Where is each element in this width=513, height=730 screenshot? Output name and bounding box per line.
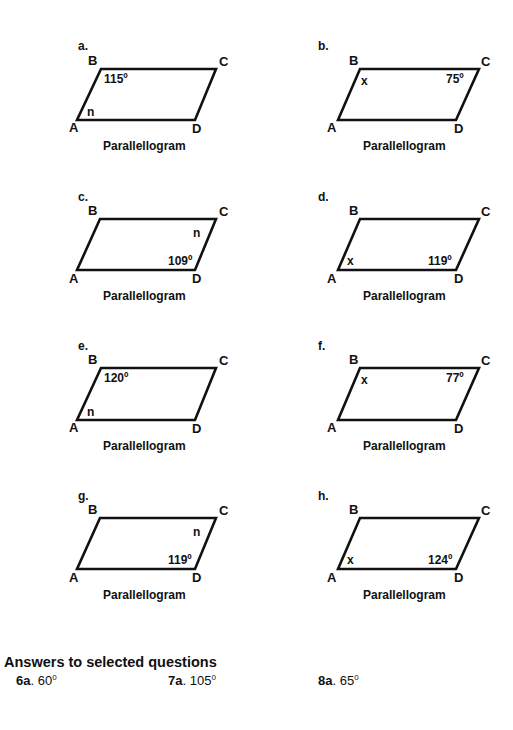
answer-8a: 8a. 650 bbox=[318, 674, 359, 688]
problem-e: e. B C A D 120º n Parallellogram bbox=[60, 338, 260, 478]
vertex-c: C bbox=[481, 56, 490, 68]
answer-6a: 6a. 600 bbox=[16, 674, 57, 688]
vertex-a: A bbox=[69, 422, 78, 434]
vertex-a: A bbox=[69, 122, 78, 134]
vertex-c: C bbox=[219, 355, 228, 367]
answer-question: 6a bbox=[16, 673, 30, 688]
vertex-d: D bbox=[192, 123, 201, 135]
figure-caption: Parallellogram bbox=[363, 140, 446, 152]
problem-d: d. B C A D x 119º Parallellogram bbox=[300, 189, 500, 329]
vertex-b: B bbox=[88, 55, 97, 67]
angle-c: n bbox=[193, 227, 200, 239]
vertex-d: D bbox=[454, 423, 463, 435]
vertex-a: A bbox=[327, 273, 336, 285]
angle-c: 77º bbox=[446, 372, 464, 384]
angle-c: n bbox=[193, 526, 200, 538]
degree-superscript: 0 bbox=[52, 673, 56, 682]
answer-question: 7a bbox=[168, 673, 182, 688]
vertex-a: A bbox=[69, 572, 78, 584]
vertex-b: B bbox=[88, 205, 97, 217]
figure-caption: Parallellogram bbox=[363, 589, 446, 601]
vertex-d: D bbox=[192, 273, 201, 285]
answer-value: 105 bbox=[186, 673, 211, 688]
angle-b: 115º bbox=[104, 73, 128, 85]
vertex-c: C bbox=[481, 355, 490, 367]
vertex-a: A bbox=[69, 273, 78, 285]
vertex-c: C bbox=[219, 206, 228, 218]
angle-d: 119º bbox=[428, 255, 452, 267]
vertex-d: D bbox=[192, 572, 201, 584]
degree-superscript: 0 bbox=[211, 673, 215, 682]
vertex-b: B bbox=[349, 504, 358, 516]
figure-caption: Parallellogram bbox=[103, 290, 186, 302]
vertex-a: A bbox=[327, 122, 336, 134]
answer-value: 60 bbox=[34, 673, 52, 688]
vertex-b: B bbox=[88, 504, 97, 516]
problem-h: h. B C A D x 124º Parallellogram bbox=[300, 488, 500, 628]
problem-f: f. B C A D x 77º Parallellogram bbox=[300, 338, 500, 478]
vertex-d: D bbox=[454, 273, 463, 285]
vertex-d: D bbox=[454, 572, 463, 584]
angle-d: 124º bbox=[428, 554, 452, 566]
answers-heading: Answers to selected questions bbox=[4, 654, 217, 670]
vertex-c: C bbox=[219, 56, 228, 68]
angle-a: x bbox=[347, 255, 354, 267]
vertex-c: C bbox=[481, 505, 490, 517]
angle-c: 75º bbox=[446, 73, 464, 85]
vertex-c: C bbox=[481, 206, 490, 218]
angle-b: 120º bbox=[104, 372, 128, 384]
degree-superscript: 0 bbox=[354, 673, 358, 682]
vertex-b: B bbox=[88, 354, 97, 366]
figure-caption: Parallellogram bbox=[103, 589, 186, 601]
angle-a: n bbox=[87, 406, 94, 418]
vertex-a: A bbox=[327, 422, 336, 434]
angle-a: n bbox=[87, 106, 94, 118]
vertex-b: B bbox=[349, 55, 358, 67]
figure-caption: Parallellogram bbox=[363, 440, 446, 452]
figure-caption: Parallellogram bbox=[363, 290, 446, 302]
answer-question: 8a bbox=[318, 673, 332, 688]
angle-d: 119º bbox=[168, 554, 192, 566]
problem-b: b. B C A D x 75º Parallellogram bbox=[300, 38, 500, 178]
angle-d: 109º bbox=[168, 255, 192, 267]
vertex-d: D bbox=[192, 423, 201, 435]
vertex-a: A bbox=[327, 572, 336, 584]
vertex-c: C bbox=[219, 505, 228, 517]
problem-c: c. B C A D n 109º Parallellogram bbox=[60, 189, 260, 329]
figure-caption: Parallellogram bbox=[103, 440, 186, 452]
angle-a: x bbox=[347, 554, 354, 566]
vertex-b: B bbox=[349, 205, 358, 217]
answer-7a: 7a. 1050 bbox=[168, 674, 216, 688]
figure-caption: Parallellogram bbox=[103, 140, 186, 152]
answer-value: 65 bbox=[336, 673, 354, 688]
vertex-d: D bbox=[454, 123, 463, 135]
problem-a: a. B C A D 115º n Parallellogram bbox=[60, 38, 260, 178]
angle-b: x bbox=[361, 75, 368, 87]
vertex-b: B bbox=[349, 354, 358, 366]
angle-b: x bbox=[361, 374, 368, 386]
problem-g: g. B C A D n 119º Parallellogram bbox=[60, 488, 260, 628]
